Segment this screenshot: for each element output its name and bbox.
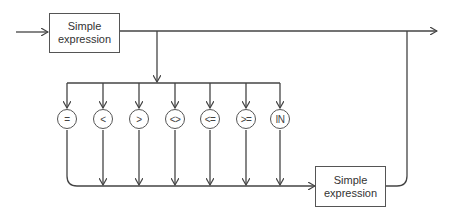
simple-expression-box-bottom: Simple expression — [315, 166, 386, 207]
box-label-line1: Simple — [334, 174, 368, 187]
box-label-line2: expression — [58, 33, 111, 46]
box-label-line2: expression — [324, 187, 377, 200]
operator-in: IN — [270, 109, 290, 129]
operator-equal: = — [57, 109, 77, 129]
simple-expression-box-top: Simple expression — [49, 13, 120, 53]
operator-greater-than: > — [129, 109, 149, 129]
operator-less-equal: <= — [200, 109, 220, 129]
box-label-line1: Simple — [68, 20, 102, 33]
operator-not-equal: <> — [165, 109, 185, 129]
operator-less-than: < — [93, 109, 113, 129]
operator-greater-equal: >= — [236, 109, 256, 129]
